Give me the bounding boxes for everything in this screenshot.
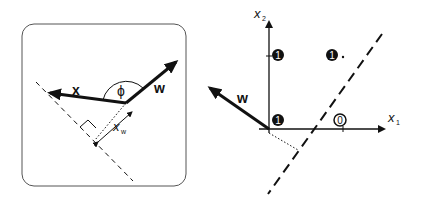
left-panel: x w ϕ x w [22,24,186,186]
decision-boundary-line [268,34,382,194]
vector-w-label: w [153,80,165,96]
right-panel: x 2 x 1 w 1 1 1 0 [210,6,400,194]
svg-text:1: 1 [275,115,281,126]
projection-subscript: w [120,128,127,135]
data-point: 0 [334,114,346,126]
perceptron-diagram: x w ϕ x w x 2 x 1 w 1 1 [0,0,421,199]
svg-text:1: 1 [329,50,335,61]
projection-dotted-line [269,133,298,150]
x1-axis-label: x [387,110,395,125]
data-point: 1 [272,49,284,61]
right-angle-marker [80,120,96,128]
panel-frame [22,24,186,186]
svg-text:1: 1 [275,50,281,61]
x2-axis-subscript: 2 [262,15,266,22]
angle-label: ϕ [117,83,125,99]
data-point: 1 [326,49,338,61]
svg-text:0: 0 [337,115,343,126]
projection-label: x [112,119,120,134]
point-dot [342,56,344,58]
data-point: 1 [272,114,284,126]
x2-axis-label: x [253,6,261,21]
vector-x-arrow [50,93,126,103]
vector-x-label: x [72,82,80,98]
vector-w-label: w [236,90,248,106]
x1-axis-subscript: 1 [396,119,400,126]
